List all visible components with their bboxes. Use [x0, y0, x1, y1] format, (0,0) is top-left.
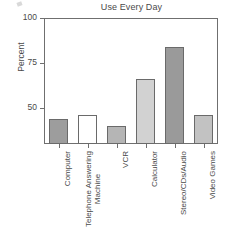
x-tick-label: Telephone AnsweringMachine [84, 151, 102, 227]
y-tick-label: 75 [28, 57, 37, 67]
x-tick-label: Video Games [208, 151, 217, 199]
y-tick: 75 [0, 63, 44, 64]
y-tick-label: 100 [23, 12, 37, 22]
x-tick-label-line2: Machine [93, 151, 102, 227]
bars-group [44, 18, 218, 144]
x-tick-label: Calculator [150, 151, 159, 187]
x-tick-label: VCR [121, 151, 130, 168]
x-tick-label-line1: Video Games [208, 151, 217, 199]
bar [78, 115, 97, 144]
y-tick: 50 [0, 108, 44, 109]
bar [194, 115, 213, 144]
x-tick-label: Stereo/CDs/Audio [179, 151, 188, 215]
bar [165, 47, 184, 144]
x-tick-line [117, 144, 118, 148]
x-tick-label-line1: Calculator [150, 151, 159, 187]
chart-title: Use Every Day [44, 2, 219, 12]
x-tick-line [204, 144, 205, 148]
x-tick-label-line1: VCR [121, 151, 130, 168]
x-tick-line [88, 144, 89, 148]
bar [107, 126, 126, 144]
bar [136, 79, 155, 144]
bar [49, 119, 68, 144]
x-tick-label-line1: Stereo/CDs/Audio [179, 151, 188, 215]
y-tick-label: 50 [28, 102, 37, 112]
x-tick-label: Computer [63, 151, 72, 186]
x-tick-label-line1: Computer [63, 151, 72, 186]
x-tick-line [175, 144, 176, 148]
x-tick-line [59, 144, 60, 148]
scan-artifact [16, 1, 22, 6]
x-tick-label-line1: Telephone Answering [84, 151, 93, 227]
x-tick-line [146, 144, 147, 148]
bar-chart: Use Every Day Percent 1007550 ComputerTe… [0, 0, 229, 231]
y-tick: 100 [0, 18, 44, 19]
y-axis-title: Percent [16, 27, 26, 87]
